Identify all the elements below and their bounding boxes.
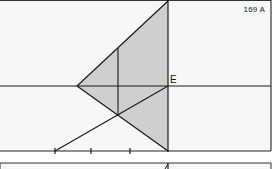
construction-diagram [0,0,275,169]
geometry-figure: 169 A E [0,0,275,169]
bottom-panel [0,163,271,169]
point-label-E: E [170,74,177,85]
figure-label: 169 A [244,5,265,14]
